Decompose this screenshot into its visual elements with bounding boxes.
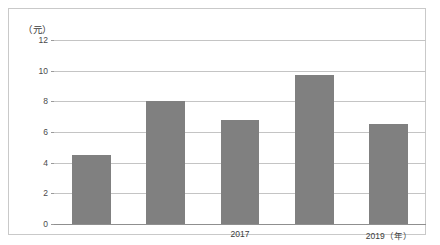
x-axis-line [54, 224, 426, 225]
x-axis-tick-label: 2019（年） [366, 229, 412, 241]
bar [146, 101, 185, 224]
y-axis-tickmark [51, 40, 54, 41]
chart-frame: （元） 02468101220172019（年） [8, 8, 426, 235]
gridline [54, 101, 426, 102]
bar [295, 75, 334, 224]
y-axis-tick-label: 10 [39, 66, 48, 76]
gridline [54, 40, 426, 41]
y-axis-tickmark [51, 163, 54, 164]
y-axis-tick-label: 8 [43, 96, 48, 106]
y-axis-tickmark [51, 193, 54, 194]
y-axis-tickmark [51, 71, 54, 72]
y-axis-tick-label: 12 [39, 35, 48, 45]
gridline [54, 71, 426, 72]
bar [221, 120, 260, 224]
y-axis-tickmark [51, 101, 54, 102]
y-axis-tick-label: 0 [43, 219, 48, 229]
bar [369, 124, 408, 224]
x-axis-tick-label: 2017 [231, 229, 250, 239]
y-axis-unit-label: （元） [23, 22, 52, 36]
y-axis-tick-label: 2 [43, 188, 48, 198]
y-axis-tickmark [51, 132, 54, 133]
y-axis-tickmark [51, 224, 54, 225]
plot-area: 02468101220172019（年） [54, 40, 426, 224]
bar-chart-figure: （元） 02468101220172019（年） [0, 0, 440, 245]
y-axis-tick-label: 4 [43, 158, 48, 168]
y-axis-tick-label: 6 [43, 127, 48, 137]
bar [72, 155, 111, 224]
